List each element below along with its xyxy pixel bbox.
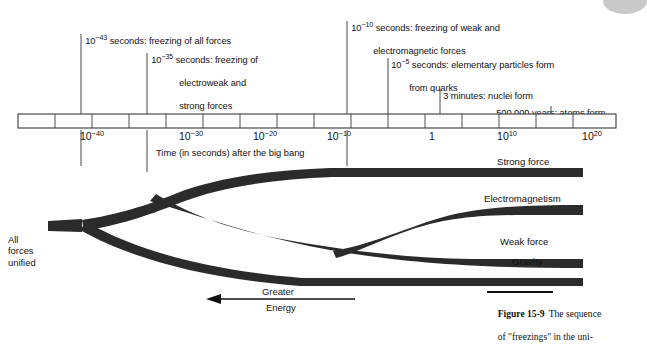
tick-base: 10 xyxy=(253,130,265,142)
branch-gravity xyxy=(80,222,583,286)
arrow-head-left xyxy=(206,294,221,304)
tick-exp: 10 xyxy=(509,129,517,138)
figure-caption: Figure 15-9The sequence of "freezings" i… xyxy=(487,296,601,346)
force-label-strong-force: Strong force xyxy=(497,156,549,167)
tick-base: 10 xyxy=(179,130,191,142)
axis-tick-label-6: 1020 xyxy=(582,130,602,142)
axis-tick-label-2: 10−20 xyxy=(253,130,277,142)
tick-base: 10 xyxy=(582,130,594,142)
branch-electromagnetism xyxy=(333,205,583,258)
timeline-axis xyxy=(18,114,616,128)
energy-arrow-label-bottom: Energy xyxy=(266,302,296,313)
tick-base: 10 xyxy=(80,130,92,142)
branch-trunk xyxy=(48,219,82,232)
axis-tick-label-5: 1010 xyxy=(497,130,517,142)
axis-tick-label-1: 10−30 xyxy=(179,130,203,142)
force-branch-tree xyxy=(48,168,583,286)
axis-tick-label-4: 1 xyxy=(429,130,435,142)
tick-exp: −30 xyxy=(191,129,204,138)
tick-exp: −10 xyxy=(339,129,352,138)
force-label-electromagnetism: Electromagnetism xyxy=(484,193,561,204)
branch-origin-label: All forces unified xyxy=(8,234,36,268)
axis-tick-label-3: 10−10 xyxy=(327,130,351,142)
tick-exp: −40 xyxy=(92,129,105,138)
tick-base: 1 xyxy=(429,130,435,142)
tick-base: 10 xyxy=(327,130,339,142)
axis-tick-label-0: 10−40 xyxy=(80,130,104,142)
axis-caption: Time (in seconds) after the big bang xyxy=(156,148,304,158)
tick-base: 10 xyxy=(497,130,509,142)
energy-arrow-label-top: Greater xyxy=(262,286,294,297)
caption-line-2: of "freezings" in the uni- xyxy=(498,331,593,342)
tick-exp: −20 xyxy=(265,129,278,138)
force-label-weak-force: Weak force xyxy=(500,236,548,247)
caption-line-1: The sequence xyxy=(549,308,601,319)
force-label-gravity: Gravity xyxy=(512,256,542,267)
tick-exp: 20 xyxy=(594,129,602,138)
figure-number: Figure 15-9 xyxy=(498,308,545,319)
leader-lines xyxy=(81,21,551,114)
